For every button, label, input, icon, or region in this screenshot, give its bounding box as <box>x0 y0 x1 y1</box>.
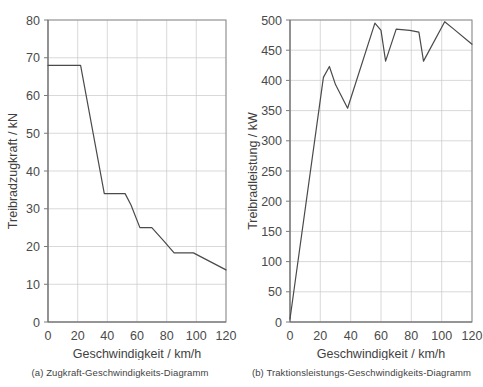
y-tick-label-0: 0 <box>275 316 282 330</box>
x-tick-label-100: 100 <box>431 329 452 343</box>
y-tick-label-250: 250 <box>261 165 282 179</box>
y-tick-label-20: 20 <box>26 240 40 254</box>
x-tick-label-60: 60 <box>374 329 388 343</box>
y-tick-label-60: 60 <box>26 89 40 103</box>
chart-panel-b: 500 450 400 350 300 250 200 150 100 50 0… <box>240 0 483 387</box>
zugkraft-geschwindigkeits-diagramm: 80 70 60 50 40 30 20 10 0 0 20 40 60 80 … <box>0 0 240 360</box>
x-axis-title: Geschwindigkeit / km/h <box>317 347 446 360</box>
x-tick-label-40: 40 <box>100 329 114 343</box>
y-tick-label-0: 0 <box>33 316 40 330</box>
x-tick-label-120: 120 <box>462 329 483 343</box>
y-tick-label-200: 200 <box>261 195 282 209</box>
y-tick-label-10: 10 <box>26 278 40 292</box>
y-tick-label-150: 150 <box>261 225 282 239</box>
y-axis-title: Treibradleistung / kW <box>246 112 260 230</box>
traktionsleistungs-geschwindigkeits-diagramm: 500 450 400 350 300 250 200 150 100 50 0… <box>240 0 483 360</box>
y-tick-label-350: 350 <box>261 104 282 118</box>
x-tick-label-40: 40 <box>344 329 358 343</box>
y-axis-title: Treibradzugkraft / kN <box>6 113 20 229</box>
panel-b-caption: (b) Traktionsleistungs-Geschwindigkeits-… <box>240 367 483 378</box>
y-tick-marks <box>286 20 290 322</box>
x-tick-label-80: 80 <box>404 329 418 343</box>
y-tick-label-50: 50 <box>26 127 40 141</box>
chart-panel-a: 80 70 60 50 40 30 20 10 0 0 20 40 60 80 … <box>0 0 240 387</box>
x-tick-label-0: 0 <box>287 329 294 343</box>
y-tick-label-40: 40 <box>26 165 40 179</box>
x-tick-label-60: 60 <box>130 329 144 343</box>
y-tick-label-450: 450 <box>261 44 282 58</box>
x-tick-label-0: 0 <box>45 329 52 343</box>
y-tick-label-30: 30 <box>26 202 40 216</box>
y-tick-label-300: 300 <box>261 134 282 148</box>
x-tick-label-120: 120 <box>216 329 237 343</box>
y-tick-label-400: 400 <box>261 74 282 88</box>
x-tick-label-100: 100 <box>186 329 207 343</box>
panel-a-caption: (a) Zugkraft-Geschwindigkeits-Diagramm <box>0 367 240 378</box>
y-tick-label-70: 70 <box>26 51 40 65</box>
x-tick-label-80: 80 <box>160 329 174 343</box>
y-tick-label-500: 500 <box>261 14 282 28</box>
x-axis-title: Geschwindigkeit / km/h <box>73 347 202 360</box>
y-tick-label-100: 100 <box>261 255 282 269</box>
x-tick-label-20: 20 <box>313 329 327 343</box>
figure-container: 80 70 60 50 40 30 20 10 0 0 20 40 60 80 … <box>0 0 483 387</box>
x-tick-label-20: 20 <box>71 329 85 343</box>
y-tick-label-80: 80 <box>26 14 40 28</box>
y-tick-label-50: 50 <box>268 285 282 299</box>
